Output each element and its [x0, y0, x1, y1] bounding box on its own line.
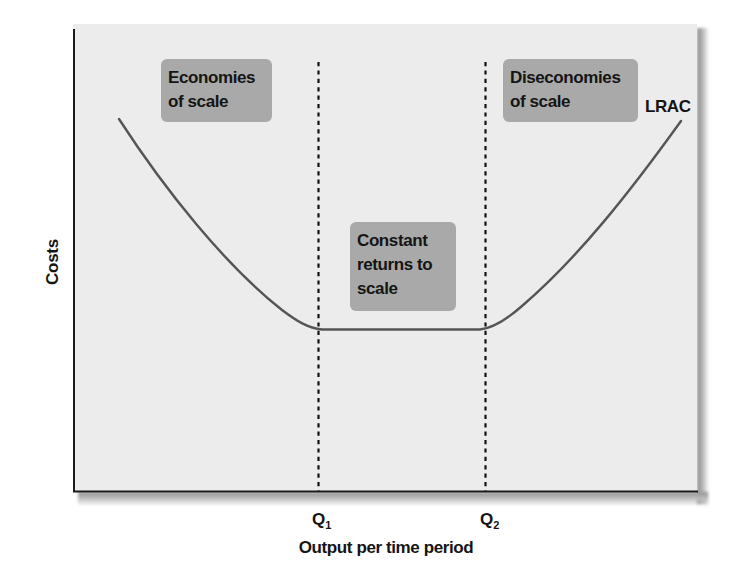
constant-returns-label: Constant returns to scale [350, 222, 456, 311]
economies-of-scale-label: Economies of scale [161, 59, 272, 122]
q2-letter: Q [480, 510, 493, 529]
y-axis-label: Costs [43, 238, 63, 286]
x-axis-label: Output per time period [292, 538, 480, 558]
q1-letter: Q [312, 510, 325, 529]
constant-line-2: returns to [357, 253, 449, 277]
x-tick-q1: Q1 [312, 510, 331, 531]
lrac-curve-label: LRAC [645, 97, 691, 117]
lrac-diagram: Economies of scale Diseconomies of scale… [0, 0, 737, 580]
q1-subscript: 1 [325, 519, 331, 531]
diseconomies-line-2: of scale [510, 90, 631, 114]
constant-line-1: Constant [357, 229, 449, 253]
diseconomies-line-1: Diseconomies [510, 66, 631, 90]
q2-subscript: 2 [493, 519, 499, 531]
economies-line-1: Economies [168, 66, 265, 90]
constant-line-3: scale [357, 277, 449, 301]
economies-line-2: of scale [168, 90, 265, 114]
diseconomies-of-scale-label: Diseconomies of scale [503, 59, 638, 122]
x-tick-q2: Q2 [480, 510, 499, 531]
